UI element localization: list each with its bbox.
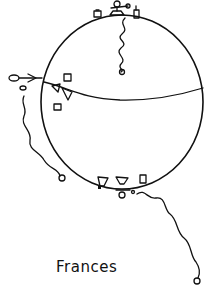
top-figures	[94, 1, 139, 75]
lamp-shape	[98, 177, 108, 186]
hat-shape	[110, 11, 124, 15]
string-loop	[59, 175, 65, 181]
globe-drawing	[0, 0, 208, 288]
stick-figure-head	[119, 192, 125, 198]
left-figures	[9, 74, 72, 181]
jar-icon	[140, 175, 146, 183]
string-loop	[194, 278, 200, 284]
drawing-caption: Frances	[56, 258, 117, 276]
string-line	[137, 192, 199, 278]
suitcase-icon	[94, 11, 101, 17]
stick-figure-head	[9, 75, 19, 81]
bag-icon	[64, 74, 71, 81]
stick-figure-head	[114, 1, 120, 7]
string-line	[119, 18, 125, 72]
drawing-canvas: Frances	[0, 0, 208, 288]
hat-shape	[116, 177, 128, 184]
box-icon	[54, 104, 61, 110]
